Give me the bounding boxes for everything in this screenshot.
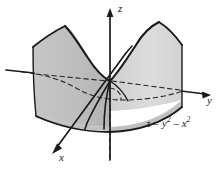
- surface-plot-figure: z y x z = y2 – x2: [0, 0, 219, 170]
- y-axis-label: y: [207, 95, 212, 106]
- surface-left-sheet: [33, 26, 110, 127]
- surface-plot-canvas: [0, 0, 219, 170]
- equation-equals-sign: =: [153, 117, 159, 129]
- x-axis-label: x: [59, 152, 64, 163]
- surface-equation-label: z = y2 – x2: [146, 118, 190, 129]
- z-axis-label: z: [118, 3, 122, 14]
- y-axis-line-left: [6, 70, 34, 73]
- z-axis-arrowhead: [107, 8, 114, 17]
- equation-term1-exponent: 2: [167, 115, 171, 124]
- equation-lhs: z: [146, 117, 150, 129]
- y-axis-line-right: [181, 91, 205, 94]
- equation-term2-exponent: 2: [187, 115, 191, 124]
- equation-minus-sign: –: [173, 117, 179, 129]
